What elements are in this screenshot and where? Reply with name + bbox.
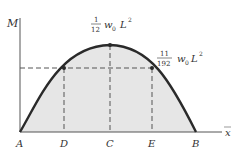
peak-fraction-numerator: 1 — [94, 16, 98, 24]
point-label-a: A — [15, 138, 23, 149]
bending-moment-diagram: M x A D C E B 1 12 w 0 L 2 11 192 w 0 L … — [0, 0, 236, 156]
point-label-b: B — [191, 138, 199, 149]
point-label-d: D — [59, 138, 68, 149]
point-e-marker — [150, 66, 154, 70]
y-axis-label: M — [6, 17, 19, 30]
peak-L-exponent: 2 — [128, 16, 132, 23]
peak-w-subscript: 0 — [112, 25, 116, 32]
peak-moment-annotation: 1 12 w 0 L 2 — [91, 16, 132, 34]
point-label-e: E — [147, 138, 156, 149]
side-fraction-numerator: 11 — [160, 50, 169, 58]
x-axis-label: x — [225, 127, 231, 138]
side-w-subscript: 0 — [185, 59, 189, 66]
side-L: L — [190, 53, 198, 64]
point-d-marker — [62, 66, 66, 70]
side-fraction-denominator: 192 — [157, 60, 170, 68]
quarter-point-moment-annotation: 11 192 w 0 L 2 — [157, 50, 203, 68]
peak-L: L — [119, 19, 127, 30]
point-label-c: C — [106, 138, 114, 149]
point-peak-marker — [108, 43, 112, 47]
peak-fraction-denominator: 12 — [91, 26, 100, 34]
side-L-exponent: 2 — [199, 50, 203, 57]
